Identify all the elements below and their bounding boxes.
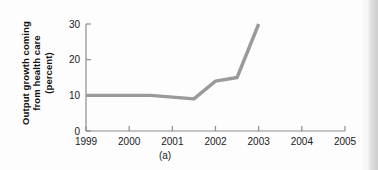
- y-tick-label: 30: [69, 19, 81, 30]
- x-tick-label: 2002: [204, 136, 227, 147]
- chart-canvas: 0102030 1999200020012002200320042005: [0, 0, 378, 170]
- x-axis-ticks: 1999200020012002200320042005: [75, 126, 357, 147]
- data-line-health-care: [86, 24, 259, 99]
- x-tick-label: 2004: [291, 136, 314, 147]
- figure-panel-a: Output growth coming from health care (p…: [0, 0, 378, 170]
- y-tick-label: 10: [69, 90, 81, 101]
- y-tick-label: 0: [74, 126, 80, 137]
- x-tick-label: 2001: [161, 136, 184, 147]
- x-tick-label: 1999: [75, 136, 98, 147]
- y-tick-label: 20: [69, 54, 81, 65]
- x-tick-label: 2000: [118, 136, 141, 147]
- y-axis-ticks: 0102030: [69, 19, 91, 137]
- x-tick-label: 2005: [334, 136, 357, 147]
- figure-caption: (a): [0, 150, 330, 161]
- x-tick-label: 2003: [248, 136, 271, 147]
- data-series-group: [86, 24, 259, 99]
- chart-axes: [86, 24, 345, 131]
